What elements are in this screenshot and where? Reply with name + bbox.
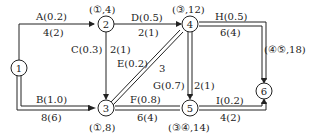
node-5-label: 5 xyxy=(187,103,193,114)
node-5-annotation: (③④,14) xyxy=(168,122,210,133)
node-4-label: 4 xyxy=(187,19,193,30)
edge-a-value: 4(2) xyxy=(43,27,64,38)
node-4: 4 xyxy=(182,16,198,32)
node-2: 2 xyxy=(98,16,114,32)
node-2-label: 2 xyxy=(103,19,109,30)
node-1-label: 1 xyxy=(16,63,22,74)
edge-d-value: 2(1) xyxy=(138,27,159,38)
edge-c-value: 2(1) xyxy=(110,44,131,55)
node-6-label: 6 xyxy=(261,86,267,97)
edge-g xyxy=(187,32,193,100)
edge-g-value: 2(1) xyxy=(194,80,215,91)
edge-b xyxy=(17,72,96,111)
node-2-annotation: (①,4) xyxy=(89,4,115,15)
node-4-annotation: (③,12) xyxy=(172,4,205,15)
node-6-annotation: (④⑤,18) xyxy=(264,44,306,55)
node-3: 3 xyxy=(98,100,114,116)
edge-h-name: H(0.5) xyxy=(215,11,247,22)
edge-b-value: 8(6) xyxy=(41,112,62,123)
node-5: 5 xyxy=(182,100,198,116)
edge-h-value: 6(4) xyxy=(220,27,241,38)
edge-a-name: A(0.2) xyxy=(36,11,67,22)
edge-e-value: 3 xyxy=(159,63,165,74)
edge-d-name: D(0.5) xyxy=(131,12,163,23)
edge-g-name: G(0.7) xyxy=(153,80,185,91)
edge-i-value: 4(2) xyxy=(220,112,241,123)
edge-c-name: C(0.3) xyxy=(71,44,102,55)
edge-i-name: I(0.2) xyxy=(216,95,244,106)
edge-f-name: F(0.8) xyxy=(130,94,161,105)
node-3-annotation: (①,8) xyxy=(89,122,115,133)
edge-e-name: E(0.2) xyxy=(117,58,148,69)
edge-f-value: 6(4) xyxy=(137,112,158,123)
edge-f xyxy=(115,106,180,110)
edge-b-name: B(1.0) xyxy=(36,94,67,105)
node-3-label: 3 xyxy=(103,103,109,114)
node-6: 6 xyxy=(256,83,272,99)
node-1: 1 xyxy=(11,60,27,76)
